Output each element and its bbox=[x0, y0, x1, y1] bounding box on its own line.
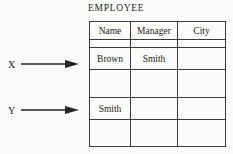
table-cell bbox=[90, 40, 131, 48]
table-cell bbox=[178, 70, 226, 98]
table-row: Brown Smith bbox=[90, 48, 226, 70]
table-cell: Smith bbox=[131, 48, 178, 70]
pointer-y-label: Y bbox=[8, 105, 20, 116]
column-header-city: City bbox=[178, 22, 226, 40]
table-row bbox=[90, 40, 226, 48]
table-row bbox=[90, 70, 226, 98]
table-cell: Brown bbox=[90, 48, 131, 70]
column-header-name: Name bbox=[90, 22, 131, 40]
table-cell: Smith bbox=[90, 98, 131, 120]
pointer-x-label: X bbox=[8, 59, 20, 70]
right-arrow-icon bbox=[20, 57, 80, 71]
pointer-y: Y bbox=[8, 103, 80, 117]
table-cell bbox=[131, 98, 178, 120]
column-header-manager: Manager bbox=[131, 22, 178, 40]
table-row bbox=[90, 120, 226, 147]
table-cell bbox=[90, 70, 131, 98]
table-cell bbox=[131, 70, 178, 98]
table-cell bbox=[178, 48, 226, 70]
table-cell bbox=[90, 120, 131, 147]
table-row: Smith bbox=[90, 98, 226, 120]
table-title: EMPLOYEE bbox=[88, 3, 144, 13]
right-arrow-icon bbox=[20, 103, 80, 117]
table-cell bbox=[131, 120, 178, 147]
employee-table: Name Manager City Brown Smith Smith bbox=[89, 21, 226, 147]
table-cell bbox=[131, 40, 178, 48]
table-cell bbox=[178, 120, 226, 147]
employee-relation-figure: EMPLOYEE Name Manager City Brown Smith bbox=[0, 0, 233, 154]
pointer-x: X bbox=[8, 57, 80, 71]
table-cell bbox=[178, 40, 226, 48]
header-row: Name Manager City bbox=[90, 22, 226, 40]
table-cell bbox=[178, 98, 226, 120]
